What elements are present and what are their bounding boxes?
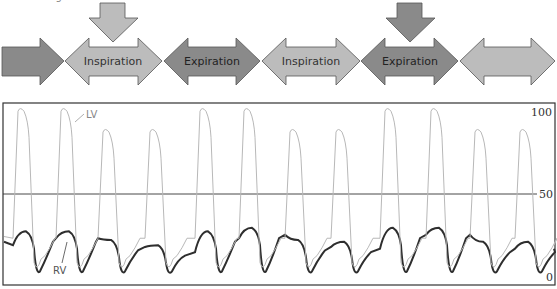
phase-label-1: Inspiration	[84, 55, 142, 68]
respiratory-ventricular-pressure-diagram: Inspiration Expiration Inspiration Expir…	[0, 0, 557, 289]
y-tick-100: 100	[531, 106, 552, 119]
pressure-chart: 100 50 0 LV RV	[3, 103, 557, 285]
down-arrow-expiration-icon	[386, 3, 435, 42]
phase-label-3: Inspiration	[282, 55, 340, 68]
y-tick-0: 0	[546, 271, 553, 284]
phase-label-4: Expiration	[382, 55, 438, 68]
y-tick-50: 50	[539, 188, 553, 201]
phase-arrow-0	[2, 38, 64, 85]
phase-arrows-row: Inspiration Expiration Inspiration Expir…	[2, 38, 555, 85]
lv-annotation: LV	[86, 109, 97, 120]
phase-label-2: Expiration	[184, 55, 240, 68]
down-arrow-inspiration-icon	[89, 3, 138, 42]
rv-annotation: RV	[53, 265, 66, 276]
phase-arrow-5	[460, 38, 555, 85]
